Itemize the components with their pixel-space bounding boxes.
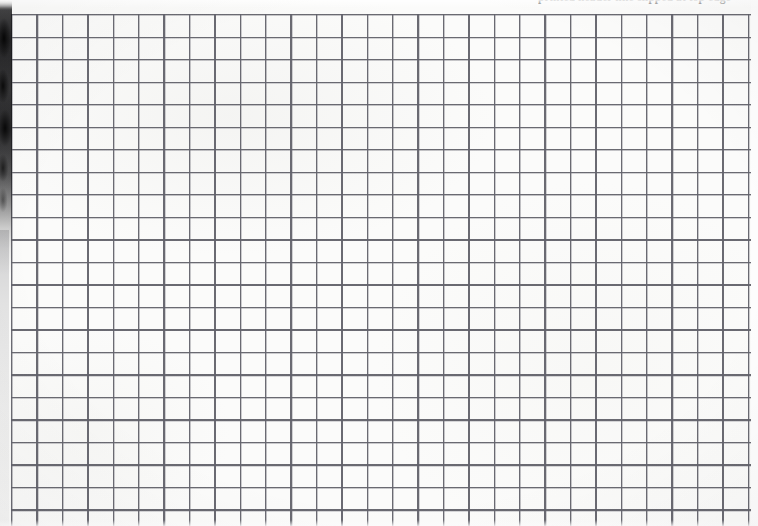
scanned-page: printed header line clipped at top edge <box>0 0 758 526</box>
right-margin-strip <box>751 0 758 526</box>
graph-paper-grid <box>11 14 751 526</box>
